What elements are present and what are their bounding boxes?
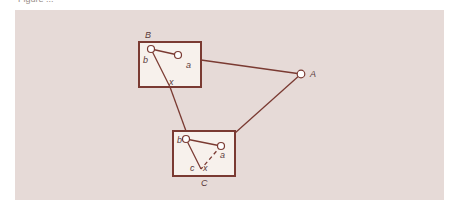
label-c-in-C: c <box>190 163 195 173</box>
label-x-in-B: x <box>168 77 174 87</box>
node-A: A <box>297 69 316 79</box>
edge-B-C <box>170 87 186 131</box>
label-A: A <box>309 69 316 79</box>
node-a-in-B <box>175 52 182 59</box>
label-B: B <box>145 30 151 40</box>
box-B: B b a x <box>139 30 201 87</box>
box-C: b a c x C <box>173 131 235 188</box>
label-x-in-C: x <box>202 163 208 173</box>
edge-A-C <box>235 74 301 133</box>
label-C: C <box>201 178 208 188</box>
label-b-in-C: b <box>177 135 182 145</box>
network-diagram: B b a x b a c x C A <box>0 0 458 214</box>
node-b-in-C <box>183 136 190 143</box>
label-a-in-C: a <box>220 150 225 160</box>
label-b-in-B: b <box>143 55 148 65</box>
node-a-in-C <box>218 143 225 150</box>
label-a-in-B: a <box>186 60 191 70</box>
node-b-in-B <box>148 46 155 53</box>
edge-B-A <box>201 60 301 74</box>
